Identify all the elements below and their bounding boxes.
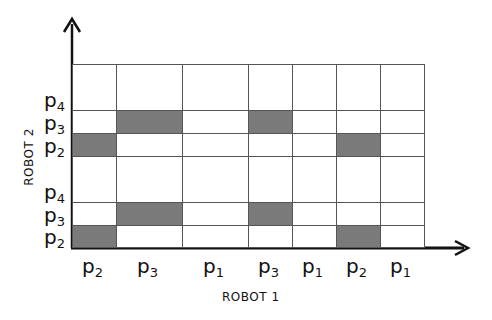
grid-cell	[380, 133, 425, 157]
x-axis-label: p1	[390, 256, 411, 283]
grid-cell	[248, 225, 293, 248]
grid-cell	[292, 156, 337, 203]
grid-cell	[72, 156, 117, 203]
grid-cell	[380, 156, 425, 203]
x-axis-label: p1	[203, 256, 224, 283]
grid-cell	[380, 202, 425, 226]
shaded-cell	[336, 133, 381, 157]
x-axis-label: p2	[82, 256, 103, 283]
shaded-cell	[72, 225, 117, 248]
y-axis-label: p4	[44, 90, 65, 117]
x-axis-label: p3	[137, 256, 158, 283]
grid-cell	[380, 110, 425, 134]
grid-cell	[182, 110, 249, 134]
grid-cell	[248, 156, 293, 203]
grid-cell	[336, 202, 381, 226]
grid-cell	[72, 64, 117, 111]
x-axis-label: p1	[302, 256, 323, 283]
robot-interference-diagram: p2p3p1p3p1p2p1 p2p3p4p2p3p4 ROBOT 1 ROBO…	[0, 0, 492, 320]
grid-cell	[292, 225, 337, 248]
grid-cell	[72, 202, 117, 226]
shaded-cell	[116, 110, 183, 134]
shaded-cell	[116, 202, 183, 226]
shaded-cell	[72, 133, 117, 157]
grid-cell	[292, 133, 337, 157]
grid-cell	[116, 64, 183, 111]
grid-cell	[72, 110, 117, 134]
grid-cell	[336, 156, 381, 203]
grid-cell	[116, 156, 183, 203]
y-axis-title: ROBOT 2	[22, 128, 36, 186]
y-axis-label: p4	[44, 182, 65, 209]
grid-cell	[292, 110, 337, 134]
y-axis-label: p3	[44, 113, 65, 140]
grid-cell	[336, 64, 381, 111]
grid-cell	[336, 110, 381, 134]
y-axis-label: p2	[44, 136, 65, 163]
grid-cell	[248, 64, 293, 111]
x-axis-title: ROBOT 1	[222, 290, 280, 304]
grid-cell	[182, 225, 249, 248]
grid-cell	[292, 202, 337, 226]
grid-cell	[182, 133, 249, 157]
grid-cell	[116, 133, 183, 157]
grid-cell	[116, 225, 183, 248]
shaded-cell	[336, 225, 381, 248]
grid-cell	[182, 202, 249, 226]
y-axis-label: p3	[44, 205, 65, 232]
grid-cell	[380, 64, 425, 111]
grid-cell	[380, 225, 425, 248]
grid-cell	[182, 64, 249, 111]
grid-cell	[182, 156, 249, 203]
shaded-cell	[248, 202, 293, 226]
grid-cell	[292, 64, 337, 111]
grid-cell	[248, 133, 293, 157]
x-axis-label: p2	[346, 256, 367, 283]
x-axis-label: p3	[258, 256, 279, 283]
shaded-cell	[248, 110, 293, 134]
